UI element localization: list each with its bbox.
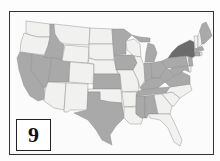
state-ct <box>195 52 200 56</box>
state-ia <box>114 55 137 70</box>
state-mi <box>145 43 157 62</box>
state-wa <box>26 21 50 37</box>
state-ms <box>136 96 145 118</box>
state-fl <box>148 114 182 146</box>
state-co <box>69 62 94 84</box>
state-vt <box>194 36 198 49</box>
state-sd <box>89 44 114 60</box>
state-nm <box>64 83 88 112</box>
state-wy <box>62 45 89 63</box>
figure-number: 9 <box>28 124 39 146</box>
state-ny <box>168 40 195 58</box>
state-wi <box>126 39 141 57</box>
state-ri <box>200 52 202 56</box>
state-me <box>200 22 212 44</box>
state-ks <box>93 74 121 89</box>
state-ar <box>122 92 137 107</box>
state-az <box>44 82 66 110</box>
figure-label-box: 9 <box>16 119 51 151</box>
state-nd <box>89 28 113 44</box>
state-pa <box>162 56 188 68</box>
